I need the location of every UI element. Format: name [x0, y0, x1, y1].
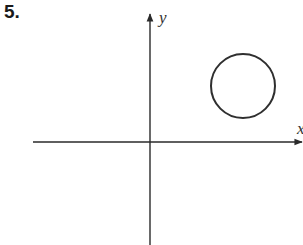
x-axis-label: x — [296, 119, 303, 138]
circle-shape — [211, 54, 275, 118]
y-axis-label: y — [157, 8, 167, 27]
coordinate-plane: y x — [0, 0, 303, 245]
